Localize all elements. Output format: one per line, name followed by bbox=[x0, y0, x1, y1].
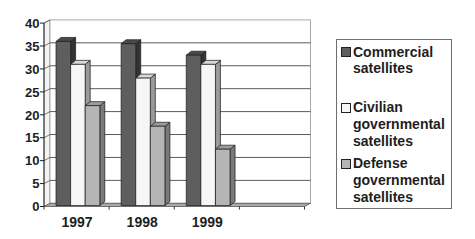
legend-label: Civilian governmental satellites bbox=[353, 99, 445, 149]
legend-swatch-commercial bbox=[341, 47, 351, 57]
bar bbox=[136, 78, 151, 205]
legend-swatch-defense bbox=[341, 159, 351, 169]
bar bbox=[121, 44, 136, 206]
y-tick-label: 30 bbox=[25, 62, 39, 77]
legend: Commercial satellites Civilian governmen… bbox=[336, 39, 452, 209]
legend-label-line: satellites bbox=[353, 60, 433, 77]
x-category-label: 1999 bbox=[192, 214, 223, 230]
y-tick-label: 15 bbox=[25, 130, 39, 145]
y-tick-label: 25 bbox=[25, 85, 39, 100]
x-category-label: 1998 bbox=[127, 214, 158, 230]
y-tick-label: 20 bbox=[25, 108, 39, 123]
bar-side bbox=[230, 145, 235, 205]
legend-label-line: Civilian bbox=[353, 99, 445, 116]
x-category-label: 1997 bbox=[61, 214, 92, 230]
legend-swatch-civilian bbox=[341, 103, 351, 113]
legend-label-line: governmental bbox=[353, 172, 445, 189]
bar bbox=[71, 64, 86, 205]
legend-label-line: governmental bbox=[353, 116, 445, 133]
legend-label: Defense governmental satellites bbox=[353, 155, 445, 205]
bar bbox=[201, 64, 216, 205]
bar bbox=[215, 149, 230, 205]
y-tick-label: 5 bbox=[32, 176, 39, 191]
bar bbox=[150, 126, 165, 205]
y-tick-label: 0 bbox=[32, 199, 39, 214]
bar bbox=[85, 106, 100, 206]
bar bbox=[186, 55, 201, 205]
chart: 0510152025303540199719981999 Commercial … bbox=[0, 0, 475, 239]
bar bbox=[56, 41, 71, 205]
legend-label-line: satellites bbox=[353, 189, 445, 206]
legend-label: Commercial satellites bbox=[353, 44, 433, 78]
bar-side bbox=[165, 122, 170, 205]
legend-label-line: Defense bbox=[353, 155, 445, 172]
legend-label-line: satellites bbox=[353, 133, 445, 150]
y-tick-label: 10 bbox=[25, 153, 39, 168]
y-tick-label: 35 bbox=[25, 39, 39, 54]
bar-side bbox=[100, 102, 105, 206]
legend-label-line: Commercial bbox=[353, 44, 433, 61]
y-tick-label: 40 bbox=[25, 16, 39, 31]
